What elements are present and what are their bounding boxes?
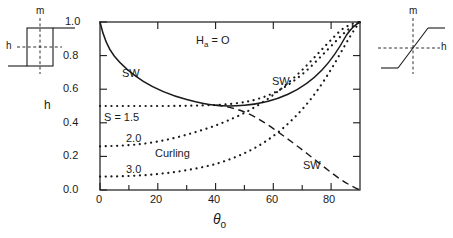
x-tick-label-40: 40 xyxy=(208,194,220,205)
curve-sw-dashed xyxy=(216,105,360,190)
x-tick-label-80: 80 xyxy=(323,194,335,205)
curve-curling-s20 xyxy=(100,22,360,146)
y-tick-label-0.8: 0.8 xyxy=(63,50,78,61)
annotation-s-2.0: 2.0 xyxy=(126,133,141,144)
right-inset-m-label: m xyxy=(409,6,417,16)
curve-curling-s15 xyxy=(100,22,360,106)
y-tick-label-0.4: 0.4 xyxy=(63,117,78,128)
x-tick-label-60: 60 xyxy=(266,194,278,205)
annotation-h-value: = O xyxy=(211,34,229,46)
annotation-curling: Curling xyxy=(155,148,190,159)
annotation-s-1.5: S = 1.5 xyxy=(104,112,139,123)
curve-curling-s30 xyxy=(100,22,360,177)
y-tick-label-1.0: 1.0 xyxy=(65,16,80,27)
y-axis-label: h xyxy=(44,99,51,111)
y-tick-label-0.0: 0.0 xyxy=(63,184,78,195)
right-inset-h-label: h xyxy=(441,42,447,52)
annotation-s-3.0: 3.0 xyxy=(126,164,141,175)
x-axis-label-subscript: o xyxy=(221,219,227,230)
annotation-applied-field: Ha = O xyxy=(196,35,229,49)
x-tick-label-0: 0 xyxy=(96,194,102,205)
right-inset-sheared-loop xyxy=(378,18,445,74)
figure-root: m h m h 0.0 0.2 0.4 0.6 0.8 1.0 h 0 20 4… xyxy=(0,0,453,238)
annotation-sw-lower-right: SW xyxy=(303,160,321,171)
left-inset-m-label: m xyxy=(36,6,44,16)
x-tick-label-20: 20 xyxy=(150,194,162,205)
y-tick-label-0.6: 0.6 xyxy=(63,83,78,94)
curve-sw-astroid xyxy=(100,22,360,106)
left-inset-h-label: h xyxy=(6,41,12,51)
x-axis-label: θo xyxy=(213,212,226,230)
annotation-sw-upper-left: SW xyxy=(122,68,140,79)
annotation-sw-upper-right: SW xyxy=(272,76,290,87)
annotation-h-symbol: H xyxy=(196,34,204,46)
x-axis-label-symbol: θ xyxy=(213,211,221,227)
y-tick-label-0.2: 0.2 xyxy=(63,150,78,161)
annotation-h-subscript: a xyxy=(204,40,208,49)
